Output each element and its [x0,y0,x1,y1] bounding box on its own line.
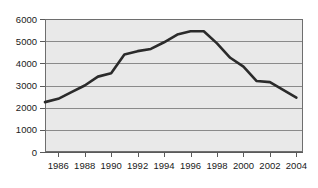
x-axis-tick-label: 1992 [127,160,148,171]
x-axis-tick-label: 2002 [259,160,280,171]
y-axis-tick-label: 6000 [16,14,37,25]
y-axis-tick-label: 4000 [16,58,37,69]
y-axis-tick-label: 3000 [16,80,37,91]
chart-canvas: 0100020003000400050006000 19861988199019… [0,0,318,188]
x-axis-tick-label: 1988 [74,160,95,171]
x-axis-tick-label: 1986 [48,160,69,171]
y-axis-tick-label: 2000 [16,102,37,113]
x-axis-tick-label: 2004 [286,160,307,171]
y-axis-tick-labels: 0100020003000400050006000 [16,14,37,158]
x-axis-tick-label: 2000 [233,160,254,171]
y-axis-tick-label: 5000 [16,36,37,47]
y-axis-tick-label: 0 [32,147,37,158]
line-chart-figure: 0100020003000400050006000 19861988199019… [0,0,318,188]
y-axis-tick-label: 1000 [16,124,37,135]
y-tick-marks-group [40,20,45,153]
x-axis-tick-label: 1994 [154,160,175,171]
x-axis-tick-label: 1998 [206,160,227,171]
x-axis-tick-label: 1996 [180,160,201,171]
x-tick-marks-group [40,152,303,157]
x-axis-tick-label: 1990 [101,160,122,171]
x-axis-tick-labels: 1986198819901992199419961998200020022004 [48,160,307,171]
